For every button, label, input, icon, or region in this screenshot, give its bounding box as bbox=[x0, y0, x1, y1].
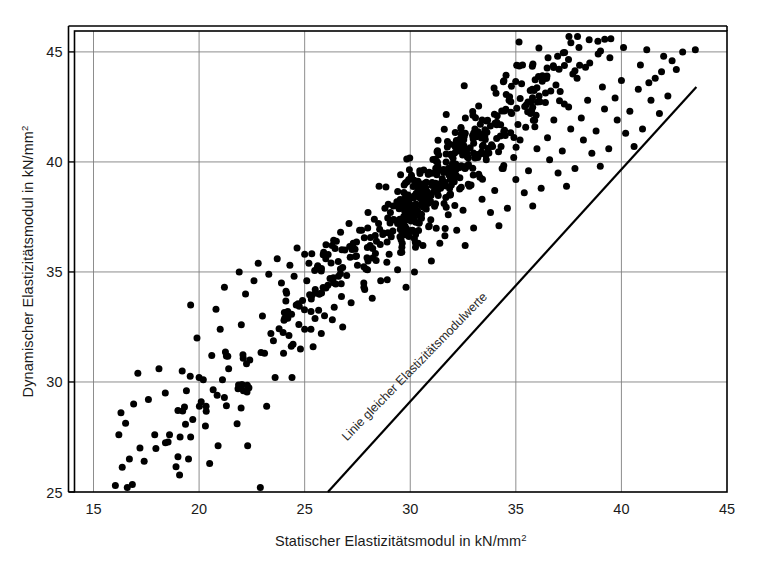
data-point bbox=[612, 95, 619, 102]
data-point bbox=[289, 374, 296, 381]
data-point bbox=[208, 352, 215, 359]
data-point bbox=[557, 88, 564, 95]
data-point bbox=[451, 178, 458, 185]
data-point bbox=[244, 382, 251, 389]
data-point bbox=[575, 44, 582, 51]
data-point bbox=[397, 199, 404, 206]
data-point bbox=[571, 165, 578, 172]
data-point bbox=[282, 297, 289, 304]
data-point bbox=[316, 291, 323, 298]
data-point bbox=[532, 76, 539, 83]
data-point bbox=[238, 404, 245, 411]
data-point bbox=[217, 326, 224, 333]
data-point bbox=[607, 35, 614, 42]
data-point bbox=[337, 265, 344, 272]
data-point bbox=[469, 165, 476, 172]
data-point bbox=[185, 455, 192, 462]
data-point bbox=[434, 159, 441, 166]
data-point bbox=[470, 224, 477, 231]
data-point bbox=[166, 431, 173, 438]
data-point bbox=[174, 407, 181, 414]
data-point bbox=[597, 48, 604, 55]
data-point bbox=[639, 125, 646, 132]
data-point bbox=[325, 251, 332, 258]
data-point bbox=[417, 214, 424, 221]
data-point bbox=[495, 222, 502, 229]
data-point bbox=[462, 242, 469, 249]
data-point bbox=[364, 224, 371, 231]
data-point bbox=[462, 114, 469, 121]
y-tick-label: 30 bbox=[46, 374, 62, 390]
data-point bbox=[531, 117, 538, 124]
data-point bbox=[637, 62, 644, 69]
data-point bbox=[453, 227, 460, 234]
data-point bbox=[303, 277, 310, 284]
data-point bbox=[516, 38, 523, 45]
data-point bbox=[206, 460, 213, 467]
data-point bbox=[242, 290, 249, 297]
data-point bbox=[315, 307, 322, 314]
data-point bbox=[272, 374, 279, 381]
data-point bbox=[200, 376, 207, 383]
data-point bbox=[286, 262, 293, 269]
data-point bbox=[329, 316, 336, 323]
data-point bbox=[291, 273, 298, 280]
data-point bbox=[560, 49, 567, 56]
data-point bbox=[614, 117, 621, 124]
data-point bbox=[599, 84, 606, 91]
data-point bbox=[183, 387, 190, 394]
data-point bbox=[475, 103, 482, 110]
data-point bbox=[492, 120, 499, 127]
data-point bbox=[458, 125, 465, 132]
data-point bbox=[586, 59, 593, 66]
data-point bbox=[294, 245, 301, 252]
data-point bbox=[669, 57, 676, 64]
data-point bbox=[432, 165, 439, 172]
data-point bbox=[460, 207, 467, 214]
superscript: 2 bbox=[19, 126, 30, 131]
data-point bbox=[521, 189, 528, 196]
data-point bbox=[354, 262, 361, 269]
data-point bbox=[601, 106, 608, 113]
data-point bbox=[574, 33, 581, 40]
data-point bbox=[338, 246, 345, 253]
data-point bbox=[594, 38, 601, 45]
data-point bbox=[469, 108, 476, 115]
data-point bbox=[522, 124, 529, 131]
data-point bbox=[224, 353, 231, 360]
data-point bbox=[507, 98, 514, 105]
data-point bbox=[360, 263, 367, 270]
data-point bbox=[152, 445, 159, 452]
data-point bbox=[451, 202, 458, 209]
data-point bbox=[679, 48, 686, 55]
chart-figure: 15202530354045 2530354045 Statischer Ela… bbox=[0, 0, 763, 563]
data-point bbox=[280, 350, 287, 357]
data-point bbox=[371, 216, 378, 223]
data-point bbox=[177, 433, 184, 440]
data-point bbox=[586, 36, 593, 43]
data-point bbox=[606, 54, 613, 61]
data-point bbox=[453, 137, 460, 144]
data-point bbox=[406, 154, 413, 161]
data-point bbox=[529, 63, 536, 70]
data-point bbox=[465, 154, 472, 161]
data-point bbox=[458, 184, 465, 191]
data-point bbox=[372, 250, 379, 257]
data-point bbox=[664, 92, 671, 99]
data-point bbox=[479, 196, 486, 203]
data-point bbox=[377, 241, 384, 248]
data-point bbox=[481, 133, 488, 140]
data-point bbox=[361, 234, 368, 241]
data-point bbox=[501, 127, 508, 134]
data-point bbox=[618, 77, 625, 84]
data-point bbox=[443, 204, 450, 211]
data-point bbox=[561, 62, 568, 69]
data-point bbox=[465, 181, 472, 188]
data-point bbox=[559, 147, 566, 154]
data-point bbox=[507, 109, 514, 116]
data-point bbox=[635, 86, 642, 93]
data-point bbox=[179, 367, 186, 374]
data-point bbox=[446, 141, 453, 148]
x-tick-label: 35 bbox=[508, 501, 524, 517]
data-point bbox=[626, 108, 633, 115]
